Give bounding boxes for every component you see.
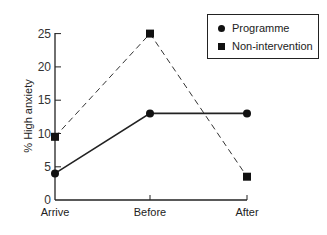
legend-item-non-intervention: Non-intervention	[218, 40, 313, 52]
square-marker-icon	[218, 43, 225, 50]
ytick-25: 25	[38, 27, 52, 41]
marker-square	[146, 30, 154, 38]
xtick-before: Before	[134, 206, 166, 218]
x-tick-labels: Arrive Before After	[41, 206, 259, 218]
series-programme	[51, 109, 251, 177]
marker-circle	[51, 169, 59, 177]
y-axis-label: % High anxiety	[22, 76, 34, 156]
xtick-after: After	[235, 206, 259, 218]
marker-square	[51, 133, 59, 141]
y-tick-labels: 0 5 10 15 20 25	[38, 27, 52, 207]
circle-marker-icon	[218, 25, 225, 32]
xtick-arrive: Arrive	[41, 206, 70, 218]
legend-label: Programme	[232, 22, 289, 34]
ytick-20: 20	[38, 60, 52, 74]
ytick-5: 5	[44, 160, 51, 174]
marker-circle	[146, 109, 154, 117]
marker-square	[243, 173, 251, 181]
legend-item-programme: Programme	[218, 22, 289, 34]
legend: Programme Non-intervention	[207, 14, 319, 59]
marker-circle	[243, 109, 251, 117]
ytick-15: 15	[38, 93, 52, 107]
ytick-10: 10	[38, 127, 52, 141]
legend-label: Non-intervention	[232, 40, 313, 52]
ytick-0: 0	[44, 193, 51, 207]
